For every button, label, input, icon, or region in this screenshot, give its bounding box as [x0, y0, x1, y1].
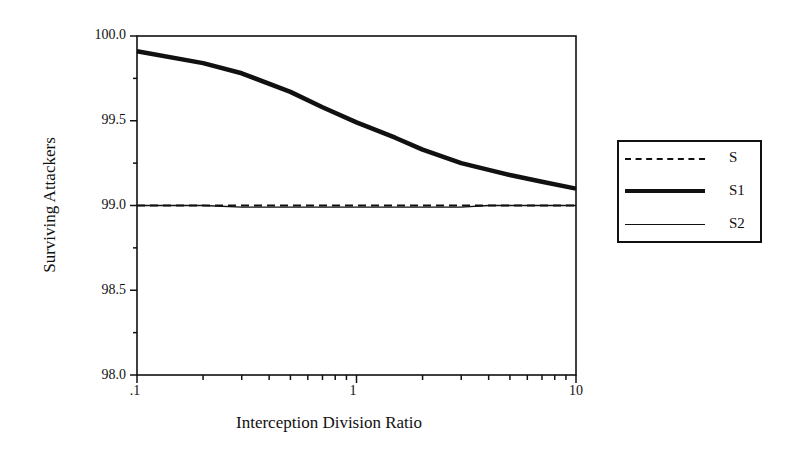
y-tick-label: 99.5	[66, 112, 126, 128]
x-axis-ticks	[137, 375, 576, 383]
legend: S S1 S2	[617, 140, 762, 243]
legend-swatch-thick	[625, 189, 705, 193]
x-tick-label: 1	[333, 383, 373, 399]
y-tick-label: 99.0	[66, 197, 126, 213]
x-tick-label: .1	[115, 383, 155, 399]
y-axis-ticks	[130, 36, 137, 375]
x-tick-label: 10	[556, 383, 596, 399]
y-tick-label: 98.5	[66, 282, 126, 298]
legend-item-S2: S2	[619, 215, 760, 235]
legend-item-S: S	[619, 149, 760, 169]
y-tick-label: 100.0	[66, 27, 126, 43]
series-S1-line	[137, 51, 576, 188]
legend-swatch-thin	[625, 224, 705, 225]
legend-swatch-dashed	[625, 158, 705, 160]
legend-item-S1: S1	[619, 182, 760, 202]
y-axis-label: Surviving Attackers	[40, 120, 60, 290]
x-axis-label: Interception Division Ratio	[236, 413, 422, 433]
y-tick-label: 98.0	[66, 367, 126, 383]
